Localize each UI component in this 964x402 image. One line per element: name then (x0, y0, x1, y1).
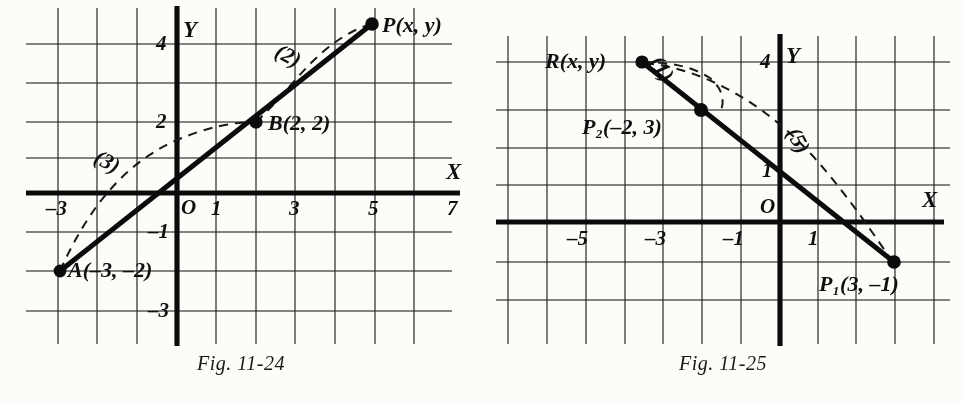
point-label-R: R(x, y) (545, 50, 606, 72)
grid-horizontal-right (496, 62, 950, 300)
point-P2-marker (694, 103, 708, 117)
caption-11-25: Fig. 11-25 (482, 352, 964, 375)
x-tick-7-left: 7 (447, 198, 458, 219)
x-tick-3-left: 3 (289, 198, 300, 219)
y-tick-4-left: 4 (156, 33, 167, 54)
x-axis-label-left: X (446, 160, 461, 183)
point-label-P1: P₁(3, –1) (819, 273, 899, 295)
point-A-marker (54, 265, 67, 278)
y-tick-2-left: 2 (156, 111, 167, 132)
figure-page: X Y O –3 1 3 5 7 4 2 –1 –3 A(–3, –2) B(2… (0, 0, 964, 402)
x-tick--1-right: –1 (723, 228, 744, 249)
x-tick-1-right: 1 (808, 228, 819, 249)
y-tick--3-left: –3 (148, 300, 169, 321)
figure-11-24: X Y O –3 1 3 5 7 4 2 –1 –3 A(–3, –2) B(2… (0, 0, 482, 402)
origin-label-right: O (760, 196, 775, 217)
grid-vertical-right (508, 36, 934, 344)
y-tick-4-right: 4 (760, 51, 771, 72)
x-tick-5-left: 5 (368, 198, 379, 219)
y-axis-label-right: Y (786, 44, 800, 67)
caption-11-24: Fig. 11-24 (0, 352, 482, 375)
figure-11-25: X Y O –5 –3 –1 1 4 1 R(x, y) P₂(–2, 3) P… (482, 0, 964, 402)
x-tick--3-right: –3 (645, 228, 666, 249)
y-tick-1-right: 1 (762, 160, 773, 181)
point-label-B: B(2, 2) (268, 112, 330, 134)
point-B-marker (249, 115, 262, 128)
x-tick--3-left: –3 (46, 198, 67, 219)
x-axis-label-right: X (922, 188, 937, 211)
point-label-P2: P₂(–2, 3) (582, 116, 662, 138)
point-label-A: A(–3, –2) (68, 259, 152, 281)
plot-11-24-canvas (0, 0, 482, 352)
x-tick-1-left: 1 (211, 198, 222, 219)
point-label-P: P(x, y) (382, 14, 442, 36)
origin-label-left: O (181, 197, 196, 218)
x-tick--5-right: –5 (567, 228, 588, 249)
y-axis-label-left: Y (183, 18, 197, 41)
point-P1-marker (887, 255, 901, 269)
y-tick--1-left: –1 (148, 221, 169, 242)
point-P-marker (365, 17, 379, 31)
